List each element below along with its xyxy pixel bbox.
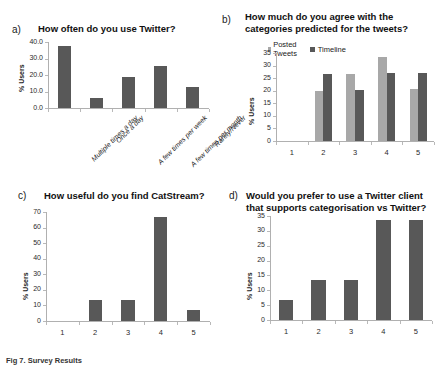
bar-b-posted-tweets-3 (346, 74, 355, 141)
y-tick-label-d-6: 30 (254, 226, 265, 233)
x-tickmark-b-2 (339, 142, 340, 145)
y-tick-label-c-0: 0 (30, 317, 41, 324)
x-tickmark-b-4 (402, 142, 403, 145)
x-tickmark-d-2 (335, 321, 336, 324)
y-tickmark-c-7 (43, 212, 46, 213)
y-tick-label-a-3: 30.0 (24, 54, 43, 61)
bar-b-timeline-4 (387, 73, 396, 141)
y-tickmark-a-4 (45, 42, 48, 43)
bar-b-posted-tweets-2 (315, 91, 324, 141)
bar-a-4 (186, 87, 199, 108)
x-tickmark-c-3 (144, 322, 145, 325)
panel-d-y-axis-label: % Users (246, 272, 253, 300)
y-tick-label-c-7: 70 (30, 208, 41, 215)
y-tickmark-a-1 (45, 92, 48, 93)
y-tick-label-b-1: 5 (256, 124, 271, 131)
panel-d-title-line1: Would you prefer to use a Twitter client (246, 190, 440, 202)
y-tickmark-a-3 (45, 59, 48, 60)
y-axis-line-b (276, 53, 277, 141)
panel-b-plot-area: 0510152025303512345 (256, 53, 434, 155)
x-tickmark-b-3 (371, 142, 372, 145)
y-tickmark-d-2 (267, 290, 270, 291)
x-tick-label-d-2: 3 (341, 327, 361, 336)
y-tick-label-b-7: 35 (256, 49, 271, 56)
panel-a-plot-area: 0.010.020.030.040.0Multiple times a dayO… (24, 42, 209, 114)
panel-d-title-line2: that supports categorisation vs Twitter? (246, 202, 440, 214)
x-tickmark-b-0 (276, 142, 277, 145)
legend-swatch-timeline (310, 47, 315, 52)
y-axis-line-a (48, 42, 49, 108)
y-tick-label-d-4: 20 (254, 256, 265, 263)
y-tick-label-c-6: 60 (30, 223, 41, 230)
x-tickmark-a-5 (209, 109, 210, 112)
y-tickmark-b-5 (273, 78, 276, 79)
y-tick-label-c-4: 40 (30, 254, 41, 261)
x-axis-line-b (276, 141, 434, 142)
bar-c-1 (89, 300, 102, 321)
y-tick-label-b-4: 20 (256, 86, 271, 93)
panel-c-plot-area: 01020304050607012345 (30, 212, 210, 335)
x-tick-label-c-1: 2 (85, 328, 105, 337)
y-tick-label-d-7: 35 (254, 212, 265, 219)
y-tickmark-b-7 (273, 53, 276, 54)
bar-c-2 (121, 300, 134, 321)
y-tick-label-b-0: 0 (256, 137, 271, 144)
bar-b-timeline-5 (418, 73, 427, 141)
y-tickmark-b-3 (273, 103, 276, 104)
y-axis-line-d (270, 216, 271, 320)
y-tick-label-d-1: 5 (254, 301, 265, 308)
panel-c-y-axis-label: % Users (22, 272, 29, 300)
y-tick-label-b-2: 10 (256, 111, 271, 118)
bar-d-0 (279, 300, 293, 320)
bar-a-1 (90, 98, 103, 108)
panel-b-title-line2: categories predicted for the tweets? (245, 23, 440, 35)
y-tickmark-b-6 (273, 66, 276, 67)
x-tick-label-d-3: 4 (373, 327, 393, 336)
y-tickmark-d-5 (267, 246, 270, 247)
x-tick-label-c-0: 1 (52, 328, 72, 337)
x-tickmark-b-1 (308, 142, 309, 145)
y-tick-label-c-2: 20 (30, 285, 41, 292)
y-tickmark-d-1 (267, 305, 270, 306)
y-tickmark-d-4 (267, 261, 270, 262)
y-tickmark-b-4 (273, 91, 276, 92)
x-tickmark-c-4 (177, 322, 178, 325)
x-tick-label-b-0: 1 (282, 148, 302, 157)
bar-d-2 (344, 280, 358, 320)
bar-a-3 (154, 66, 167, 108)
y-tick-label-c-5: 50 (30, 239, 41, 246)
x-axis-line-a (48, 108, 209, 109)
panel-d-letter: d) (229, 190, 238, 201)
bar-c-4 (187, 310, 200, 321)
x-tickmark-c-5 (210, 322, 211, 325)
y-tickmark-d-6 (267, 231, 270, 232)
x-tickmark-d-5 (432, 321, 433, 324)
panel-a-letter: a) (12, 24, 21, 35)
x-tickmark-c-1 (79, 322, 80, 325)
y-tick-label-a-1: 10.0 (24, 87, 43, 94)
bar-b-posted-tweets-4 (378, 57, 387, 141)
y-tickmark-c-1 (43, 305, 46, 306)
y-tickmark-c-4 (43, 259, 46, 260)
bar-a-2 (122, 77, 135, 108)
bar-c-3 (154, 217, 167, 321)
x-tickmark-d-4 (400, 321, 401, 324)
x-tickmark-d-0 (270, 321, 271, 324)
y-tickmark-d-7 (267, 216, 270, 217)
y-tick-label-b-6: 30 (256, 61, 271, 68)
y-tick-label-d-0: 0 (254, 316, 265, 323)
y-tickmark-d-3 (267, 275, 270, 276)
figure-caption: Fig 7. Survey Results (6, 356, 82, 365)
x-tick-label-d-0: 1 (276, 327, 296, 336)
panel-a-title: How often do you use Twitter? (38, 23, 208, 35)
y-tickmark-b-2 (273, 116, 276, 117)
y-tick-label-a-0: 0.0 (24, 104, 43, 111)
x-axis-line-c (46, 321, 210, 322)
y-tick-label-b-3: 15 (256, 99, 271, 106)
y-tick-label-d-5: 25 (254, 241, 265, 248)
x-axis-line-d (270, 320, 432, 321)
y-tickmark-b-1 (273, 128, 276, 129)
panel-b-letter: b) (222, 14, 231, 25)
y-tick-label-a-4: 40.0 (24, 38, 43, 45)
bar-b-posted-tweets-5 (410, 89, 419, 141)
